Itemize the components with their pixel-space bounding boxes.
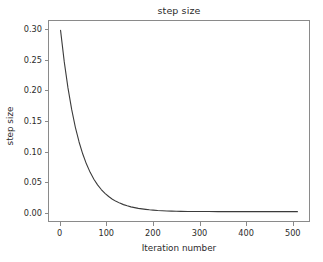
x-tick-mark — [106, 222, 107, 226]
y-tick-label: 0.05 — [12, 177, 42, 187]
y-tick-label: 0.30 — [12, 24, 42, 34]
x-tick-label: 100 — [98, 228, 114, 238]
y-tick-label: 0.15 — [12, 116, 42, 126]
x-tick-mark — [246, 222, 247, 226]
x-tick-label: 400 — [238, 228, 254, 238]
figure-canvas: step size 0.000.050.100.150.200.250.30 0… — [0, 0, 323, 262]
step-size-curve — [49, 21, 309, 221]
y-axis-label: step size — [5, 91, 15, 161]
x-tick-mark — [200, 222, 201, 226]
x-tick-label: 300 — [192, 228, 208, 238]
x-tick-mark — [60, 222, 61, 226]
y-tick-label: 0.00 — [12, 208, 42, 218]
chart-title: step size — [48, 5, 310, 16]
x-tick-label: 0 — [57, 228, 62, 238]
x-tick-label: 200 — [145, 228, 161, 238]
x-tick-mark — [153, 222, 154, 226]
y-tick-label: 0.20 — [12, 85, 42, 95]
y-tick-label: 0.25 — [12, 55, 42, 65]
x-tick-mark — [293, 222, 294, 226]
x-tick-label: 500 — [285, 228, 301, 238]
y-tick-label: 0.10 — [12, 147, 42, 157]
x-axis-label: Iteration number — [48, 243, 310, 253]
plot-area — [48, 20, 310, 222]
